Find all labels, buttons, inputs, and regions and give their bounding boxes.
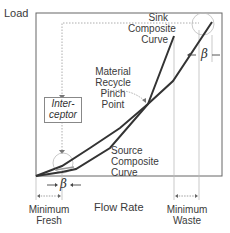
min-fresh-label: Minimum Fresh [24, 204, 74, 226]
y-axis-label: Load [4, 8, 28, 19]
sink-curve-label: Sink Composite Curve [128, 12, 168, 45]
source-curve-label: Source Composite Curve [111, 145, 159, 178]
beta-bottom-symbol: β [60, 177, 67, 191]
min-waste-label: Minimum Waste [162, 204, 212, 226]
beta-bottom-left-arrow [55, 183, 58, 187]
x-axis-label: Flow Rate [94, 202, 144, 213]
beta-top-symbol: β [201, 47, 208, 61]
pinch-point-label: Material Recycle Pinch Point [88, 66, 138, 110]
beta-bottom-right-arrow [70, 183, 73, 187]
interceptor-box: Inter- ceptor [44, 97, 82, 123]
diagram-canvas [0, 0, 230, 233]
